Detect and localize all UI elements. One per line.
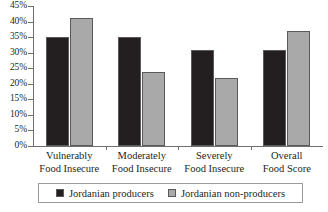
bar-group: [191, 6, 238, 146]
bar-group: [263, 6, 310, 146]
bar: [142, 72, 165, 146]
y-axis-tick-label: 25%: [10, 63, 27, 73]
y-axis-tick-label: 30%: [10, 48, 27, 58]
y-axis-tick: [28, 146, 33, 147]
y-axis-tick-label: 35%: [10, 32, 27, 42]
y-axis-tick-label: 20%: [10, 79, 27, 89]
legend-item-label: Jordanian producers: [69, 188, 154, 199]
y-axis-tick-label: 45%: [10, 1, 27, 11]
light-swatch-icon: [168, 189, 176, 197]
legend-item-label: Jordanian non-producers: [181, 188, 285, 199]
bar: [287, 31, 310, 146]
y-axis-tick-label: 5%: [15, 125, 27, 135]
dark-swatch-icon: [56, 189, 64, 197]
bar: [215, 78, 238, 146]
y-axis-tick-label: 15%: [10, 94, 27, 104]
bar: [263, 50, 286, 146]
bar: [70, 18, 93, 146]
bar-group: [118, 6, 165, 146]
bar: [191, 50, 214, 146]
y-axis-tick-label: 40%: [10, 17, 27, 27]
plot-area: [33, 6, 323, 146]
chart-legend: Jordanian producersJordanian non-produce…: [38, 183, 303, 203]
bar-chart: 45%40%35%30%25%20%15%10%5%0% VulnerablyF…: [0, 0, 328, 212]
y-axis-tick-label: 10%: [10, 110, 27, 120]
legend-item[interactable]: Jordanian non-producers: [168, 188, 285, 199]
x-axis-category-label: OverallFood Score: [239, 150, 328, 175]
bar: [46, 37, 69, 146]
bar-group: [46, 6, 93, 146]
x-axis-category-label-line: Food Score: [239, 163, 328, 176]
legend-item[interactable]: Jordanian producers: [56, 188, 154, 199]
x-axis-category-label-line: Overall: [239, 150, 328, 163]
bar: [118, 37, 141, 146]
